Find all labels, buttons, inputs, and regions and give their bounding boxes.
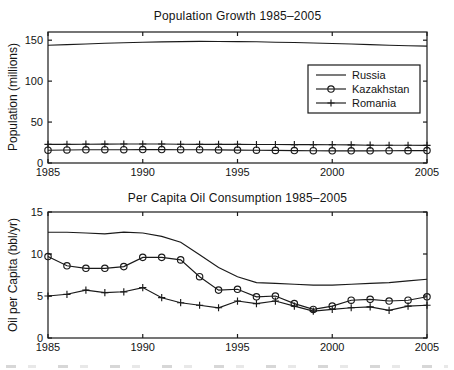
axes [48,212,427,338]
y-tick-label: 50 [31,116,43,128]
series-russia [48,232,427,285]
y-tick-label: 100 [25,75,43,87]
tick-labels: 19851990199520002005051015 [31,206,439,353]
y-tick-label: 15 [31,206,43,218]
cropped-caption-remnant [6,365,448,368]
y-tick-label: 0 [37,332,43,344]
oil-plot-svg: 19851990199520002005051015 [0,185,454,370]
y-tick-label: 0 [37,157,43,169]
russia-line [48,41,427,46]
legend-label: Russia [352,69,387,81]
legend-label: Romania [352,97,397,109]
x-tick-label: 1995 [225,341,249,353]
legend-label: Kazakhstan [352,83,409,95]
x-tick-label: 2000 [320,341,344,353]
y-tick-label: 5 [37,290,43,302]
figure: Population Growth 1985–2005 Population (… [0,0,454,370]
legend: RussiaKazakhstanRomania [308,65,420,113]
x-tick-label: 2005 [415,341,439,353]
x-tick-label: 1995 [225,166,249,178]
series-russia [48,41,427,46]
x-tick-label: 2005 [415,166,439,178]
population-plot-svg: 19851990199520002005050100150RussiaKazak… [0,0,454,185]
x-tick-label: 2000 [320,166,344,178]
y-tick-label: 10 [31,248,43,260]
kazakhstan-line [48,150,427,151]
y-tick-label: 150 [25,34,43,46]
russia-line [48,232,427,285]
x-tick-label: 1990 [131,341,155,353]
x-tick-label: 1990 [131,166,155,178]
